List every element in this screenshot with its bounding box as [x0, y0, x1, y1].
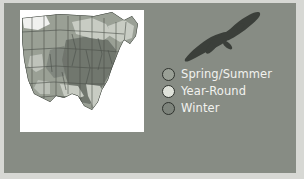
map-regions — [20, 10, 144, 132]
legend-swatch-winter — [162, 102, 175, 115]
legend-swatch-spring-summer — [162, 68, 175, 81]
soaring-hawk-silhouette — [181, 7, 263, 67]
legend-label-winter: Winter — [181, 102, 220, 115]
figure-panel: Spring/Summer Year-Round Winter — [4, 3, 296, 173]
legend: Spring/Summer Year-Round Winter — [162, 66, 294, 117]
legend-item-spring-summer[interactable]: Spring/Summer — [162, 66, 294, 82]
range-map-graphic — [20, 10, 144, 132]
hawk-icon — [181, 7, 263, 67]
legend-item-winter[interactable]: Winter — [162, 100, 294, 116]
legend-item-year-round[interactable]: Year-Round — [162, 83, 294, 99]
legend-swatch-year-round — [162, 85, 175, 98]
legend-label-year-round: Year-Round — [181, 85, 246, 98]
image-frame: Spring/Summer Year-Round Winter — [0, 0, 304, 179]
range-map — [20, 10, 144, 132]
legend-label-spring-summer: Spring/Summer — [181, 68, 272, 81]
